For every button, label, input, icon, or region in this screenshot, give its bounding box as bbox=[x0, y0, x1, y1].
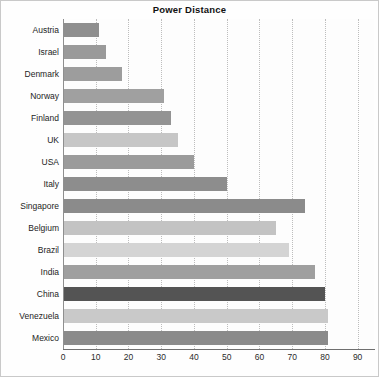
category-label-norway: Norway bbox=[1, 91, 59, 101]
bar-singapore[interactable] bbox=[63, 199, 305, 213]
x-tick-label-50: 50 bbox=[222, 352, 231, 362]
bar-israel[interactable] bbox=[63, 45, 106, 59]
bar-row bbox=[63, 151, 374, 173]
category-label-india: India bbox=[1, 267, 59, 277]
category-label-brazil: Brazil bbox=[1, 245, 59, 255]
category-label-uk: UK bbox=[1, 135, 59, 145]
bar-belgium[interactable] bbox=[63, 221, 276, 235]
chart-title: Power Distance bbox=[1, 4, 378, 15]
bar-row bbox=[63, 63, 374, 85]
bar-india[interactable] bbox=[63, 265, 315, 279]
category-label-singapore: Singapore bbox=[1, 201, 59, 211]
bar-mexico[interactable] bbox=[63, 331, 328, 345]
x-tick-label-90: 90 bbox=[353, 352, 362, 362]
y-axis-line bbox=[63, 19, 64, 349]
x-tick-label-10: 10 bbox=[91, 352, 100, 362]
bar-row bbox=[63, 173, 374, 195]
bar-austria[interactable] bbox=[63, 23, 99, 37]
bar-row bbox=[63, 195, 374, 217]
category-label-usa: USA bbox=[1, 157, 59, 167]
x-tick-label-30: 30 bbox=[156, 352, 165, 362]
bar-row bbox=[63, 283, 374, 305]
bar-italy[interactable] bbox=[63, 177, 227, 191]
category-label-belgium: Belgium bbox=[1, 223, 59, 233]
x-tick-label-40: 40 bbox=[189, 352, 198, 362]
bar-row bbox=[63, 129, 374, 151]
category-label-venezuela: Venezuela bbox=[1, 311, 59, 321]
plot-area bbox=[63, 19, 374, 349]
bar-china[interactable] bbox=[63, 287, 325, 301]
bar-venezuela[interactable] bbox=[63, 309, 328, 323]
category-label-israel: Israel bbox=[1, 47, 59, 57]
x-tick-label-60: 60 bbox=[255, 352, 264, 362]
bar-row bbox=[63, 107, 374, 129]
category-label-mexico: Mexico bbox=[1, 333, 59, 343]
x-tick-label-70: 70 bbox=[287, 352, 296, 362]
bar-row bbox=[63, 305, 374, 327]
x-axis-line bbox=[63, 349, 375, 350]
category-label-finland: Finland bbox=[1, 113, 59, 123]
category-label-denmark: Denmark bbox=[1, 69, 59, 79]
bar-row bbox=[63, 85, 374, 107]
bar-row bbox=[63, 217, 374, 239]
bar-norway[interactable] bbox=[63, 89, 164, 103]
bar-row bbox=[63, 239, 374, 261]
x-tick-label-80: 80 bbox=[320, 352, 329, 362]
bar-uk[interactable] bbox=[63, 133, 178, 147]
x-tick-label-20: 20 bbox=[124, 352, 133, 362]
x-tick-label-0: 0 bbox=[61, 352, 66, 362]
bar-row bbox=[63, 261, 374, 283]
category-label-china: China bbox=[1, 289, 59, 299]
bar-row bbox=[63, 19, 374, 41]
bar-row bbox=[63, 327, 374, 349]
bar-finland[interactable] bbox=[63, 111, 171, 125]
bar-brazil[interactable] bbox=[63, 243, 289, 257]
bar-usa[interactable] bbox=[63, 155, 194, 169]
category-label-austria: Austria bbox=[1, 25, 59, 35]
bar-denmark[interactable] bbox=[63, 67, 122, 81]
chart-container: Power Distance 0102030405060708090 Austr… bbox=[0, 0, 379, 377]
bar-row bbox=[63, 41, 374, 63]
category-label-italy: Italy bbox=[1, 179, 59, 189]
